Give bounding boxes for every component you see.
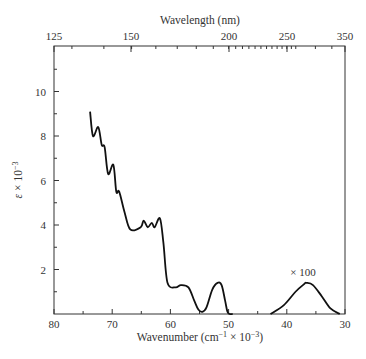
y-tick-label: 10 [35,86,47,98]
y-tick-label: 4 [41,219,47,231]
y-axis-title: ε × 10−3 [11,162,24,199]
top-tick-label: 200 [221,30,238,42]
scale-annotation: × 100 [290,266,316,278]
x-tick-label: 60 [165,318,177,330]
spectrum-line [90,112,233,315]
x-tick-label: 50 [223,318,235,330]
x-axis-title: Wavenumber (cm−1 × 10−3) [137,330,264,344]
top-tick-label: 350 [337,30,354,42]
x-tick-label: 30 [340,318,352,330]
top-axis-title: Wavelength (nm) [160,14,240,27]
x-tick-label: 40 [281,318,293,330]
top-tick-label: 250 [279,30,296,42]
y-tick-label: 6 [41,175,47,187]
top-tick-label: 150 [123,30,140,42]
top-tick-label: 125 [46,30,63,42]
spectrum-line [271,283,340,314]
y-tick-label: 8 [41,130,47,142]
data-curves [90,112,340,315]
spectrum-chart: 807060504030246810125150200250350 Wavenu… [0,0,366,359]
x-tick-label: 70 [107,318,119,330]
x-tick-label: 80 [49,318,61,330]
axis-labels: 807060504030246810125150200250350 [35,30,354,330]
y-tick-label: 2 [41,264,47,276]
